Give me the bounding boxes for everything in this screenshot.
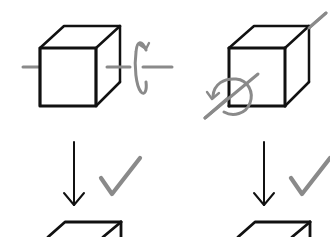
diagonal-axis-tip — [309, 13, 326, 28]
right-panel — [205, 13, 330, 237]
check-icon — [291, 158, 330, 194]
left-panel — [23, 26, 172, 237]
result-cube-partial — [48, 222, 121, 237]
check-icon — [101, 158, 140, 194]
cube-icon — [229, 26, 309, 106]
arrow-down-icon — [254, 142, 274, 205]
arrow-down-icon — [64, 142, 84, 205]
result-cube-partial — [238, 222, 310, 237]
rotation-diagram — [0, 0, 330, 237]
